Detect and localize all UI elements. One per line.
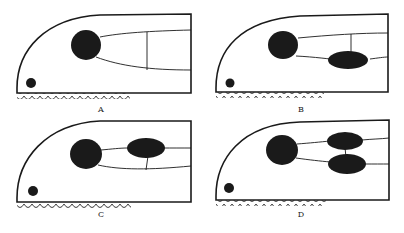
panel-d: D (216, 120, 389, 219)
panel-b: B (216, 14, 388, 114)
panel-label: B (298, 105, 304, 114)
small-dot (26, 78, 36, 88)
panel-label: C (98, 210, 104, 219)
serrated-edge (216, 200, 326, 206)
panel-label: D (298, 210, 304, 219)
figure-canvas: A B C D (0, 0, 404, 233)
small-dot (226, 79, 235, 88)
upper-dark-oval (327, 132, 363, 150)
head-outline (216, 14, 388, 92)
serrated-edge (17, 93, 130, 99)
large-circle (71, 30, 101, 60)
serrated-edge (216, 92, 324, 98)
panel-c: C (17, 121, 191, 219)
small-dot (224, 183, 234, 193)
dark-oval (127, 138, 165, 158)
small-dot (28, 186, 38, 196)
lower-dark-oval (328, 154, 366, 174)
dark-oval (328, 51, 368, 69)
large-circle (268, 31, 298, 59)
serrated-edge (17, 202, 131, 208)
large-circle (70, 139, 102, 169)
head-outline (17, 121, 191, 202)
panel-label: A (97, 105, 104, 114)
large-circle (266, 135, 298, 165)
panel-a: A (17, 14, 191, 114)
head-outline (17, 14, 191, 93)
